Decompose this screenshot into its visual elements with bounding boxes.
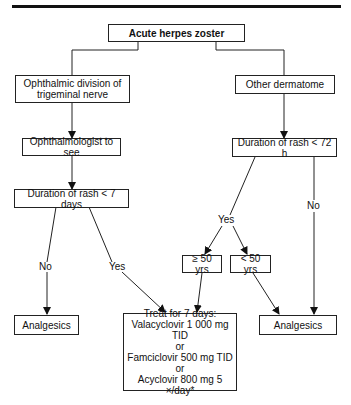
node-other-dermatome: Other dermatome — [235, 75, 335, 94]
edge-label-rash72-no: No — [306, 201, 321, 211]
node-age-50-or-older: ≥ 50 yrs — [182, 255, 222, 273]
edge-label-rash72-yes: Yes — [217, 215, 235, 225]
node-age-under-50: < 50 yrs — [230, 255, 271, 273]
node-label: Other dermatome — [246, 79, 324, 90]
node-label: < 50 yrs — [234, 253, 267, 275]
node-label: Ophthalmologist to see — [26, 136, 117, 158]
node-analgesics-right: Analgesics — [259, 315, 337, 335]
node-acute-herpes-zoster: Acute herpes zoster — [108, 24, 245, 42]
node-duration-rash-7-days: Duration of rash < 7 days — [14, 189, 129, 208]
node-ophthalmologist-to-see: Ophthalmologist to see — [22, 138, 121, 156]
node-label: Analgesics — [274, 320, 322, 331]
node-ophthalmic-division: Ophthalmic division of trigeminal nerve — [15, 75, 130, 103]
treat-line: Acyclovir 800 mg 5 ×/day* — [127, 374, 233, 396]
node-label: Acute herpes zoster — [129, 28, 225, 39]
node-treat-7-days: Treat for 7 days: Valacyclovir 1 000 mg … — [123, 313, 237, 391]
treat-line: or — [127, 341, 233, 352]
node-duration-rash-72h: Duration of rash < 72 h — [232, 138, 337, 157]
node-label: Duration of rash < 7 days — [18, 188, 125, 210]
node-label: Analgesics — [22, 320, 70, 331]
treat-line: Valacyclovir 1 000 mg TID — [127, 319, 233, 341]
node-label-line: Ophthalmic division of — [24, 78, 122, 89]
treat-line: or — [127, 363, 233, 374]
edge-label-rash7-yes: Yes — [108, 262, 126, 272]
node-label: ≥ 50 yrs — [186, 253, 218, 275]
treat-line: Famciclovir 500 mg TID — [127, 352, 233, 363]
node-analgesics-left: Analgesics — [14, 315, 79, 335]
treat-line: Treat for 7 days: — [127, 308, 233, 319]
node-label-line: trigeminal nerve — [24, 89, 122, 100]
edge-label-rash7-no: No — [38, 262, 53, 272]
node-label: Duration of rash < 72 h — [236, 137, 333, 159]
